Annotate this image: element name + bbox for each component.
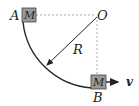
point-b-label: B [92, 90, 103, 105]
velocity-label: v [126, 75, 134, 89]
radius-arrow [47, 17, 97, 65]
center-o-label: O [97, 8, 108, 23]
block-a-label: M [23, 9, 36, 22]
point-a-label: A [9, 8, 19, 23]
quarter-circle-track-diagram: M M v A O R B [0, 0, 139, 106]
radius-label: R [72, 42, 83, 57]
block-b-label: M [92, 76, 105, 89]
